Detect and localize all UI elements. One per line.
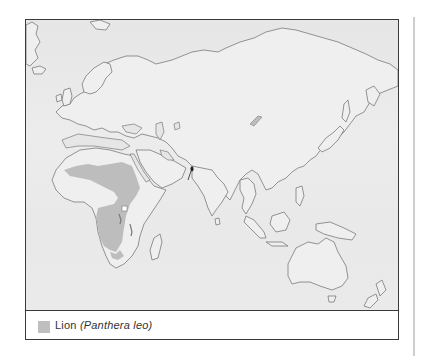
lion-range-swatch (38, 321, 50, 333)
new-guinea-outline (316, 222, 356, 240)
sumatra-outline (244, 216, 266, 238)
map-legend: Lion (Panthera leo) (26, 311, 398, 339)
ireland-outline (56, 94, 62, 102)
scientific-name-text: Panthera leo (84, 319, 149, 331)
legend-label-lion: Lion (Panthera leo) (55, 319, 152, 331)
new-zealand-north-outline (376, 280, 386, 296)
legend-common-name: Lion (55, 319, 77, 331)
svalbard-outline (90, 20, 110, 30)
java-outline (266, 242, 288, 246)
tasmania-outline (328, 296, 336, 302)
legend-scientific-name: (Panthera leo) (80, 319, 153, 331)
australia-outline (288, 238, 348, 290)
lake-victoria (122, 206, 127, 211)
new-zealand-south-outline (364, 294, 378, 308)
page-side-rule (413, 17, 415, 356)
world-map-svg (26, 20, 398, 310)
paren-close: ) (149, 319, 153, 331)
map-area (26, 20, 398, 311)
madagascar-outline (150, 234, 162, 260)
map-frame: Lion (Panthera leo) (25, 19, 399, 340)
great-britain-outline (62, 88, 72, 106)
greenland-outline (26, 22, 40, 66)
iceland-outline (32, 66, 46, 74)
philippines-outline (296, 186, 304, 206)
indochina-outline (240, 178, 256, 214)
sri-lanka-outline (215, 218, 220, 225)
borneo-outline (270, 212, 290, 232)
